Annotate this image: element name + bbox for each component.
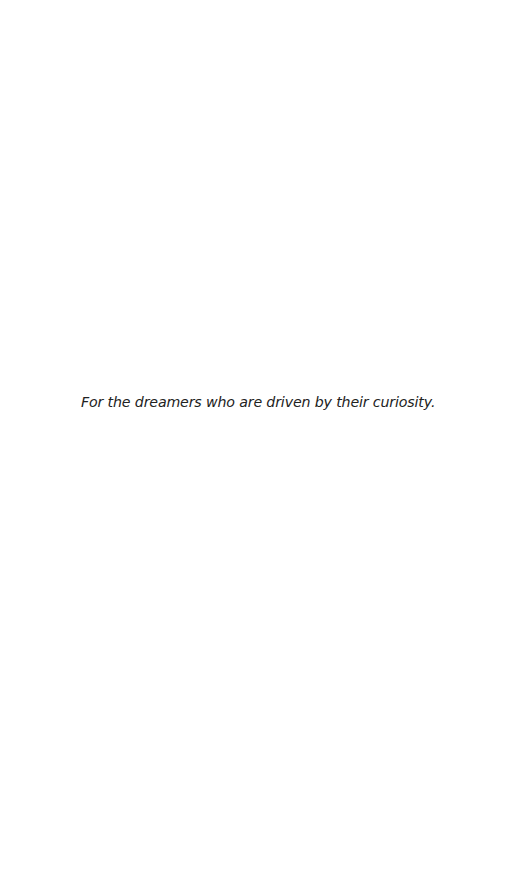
dedication-page: For the dreamers who are driven by their… (0, 0, 521, 871)
dedication-text: For the dreamers who are driven by their… (81, 392, 435, 412)
